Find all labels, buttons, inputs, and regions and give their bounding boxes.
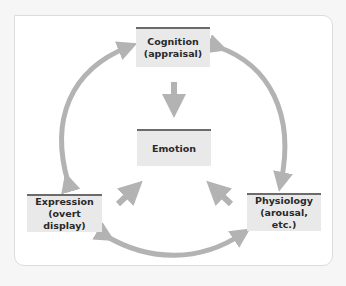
arrow-physiology-to-emotion: [215, 189, 231, 204]
arrow-cognition-physiology: [218, 47, 285, 182]
node-expression: Expression (overt display): [27, 194, 102, 232]
arrow-expression-physiology: [106, 234, 242, 255]
arrow-expression-to-emotion: [118, 189, 134, 204]
node-emotion: Emotion: [137, 129, 211, 166]
node-physiology-subtitle: (arousal, etc.): [247, 207, 321, 231]
node-expression-subtitle: (overt display): [27, 208, 102, 232]
node-cognition-subtitle: (appraisal): [144, 48, 202, 60]
node-expression-title: Expression: [27, 196, 102, 208]
node-cognition-title: Cognition: [144, 36, 202, 48]
node-physiology: Physiology (arousal, etc.): [247, 193, 321, 231]
node-physiology-title: Physiology: [247, 195, 321, 207]
node-cognition: Cognition (appraisal): [136, 27, 210, 67]
arrow-cognition-expression: [62, 47, 128, 182]
node-emotion-title: Emotion: [152, 143, 196, 155]
